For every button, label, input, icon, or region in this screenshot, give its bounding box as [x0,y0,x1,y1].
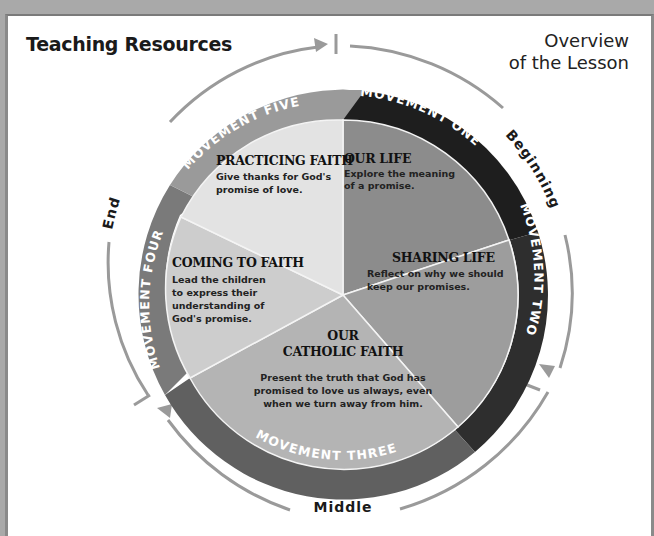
stage-label-middle: Middle [313,499,372,515]
segment-text-line: Present the truth that God has [260,372,426,383]
segment-text-line: keep our promises. [367,281,470,292]
segment-text-line: Lead the children [172,274,266,285]
segment-text-line: promised to love us always, even [254,385,433,396]
segment-heading: COMING TO FAITH [172,255,304,270]
segment-heading: SHARING LIFE [392,250,495,265]
segment-text-line: promise of love. [216,184,303,195]
segment-text-line: of a promise. [344,180,415,191]
arrow-down-icon [539,364,555,378]
segment-heading-line-1: OUR [327,328,359,343]
segment-heading-line-2: CATHOLIC FAITH [283,344,404,359]
segment-text-line: to express their [172,287,257,298]
segment-text-line: when we turn away from him. [263,398,423,409]
segment-text-line: Explore the meaning [344,168,455,179]
segment-text-line: God's promise. [172,313,252,324]
segment-text-line: Reflect on why we should [367,268,504,279]
arrow-up-icon [157,404,172,418]
stage-label-end: End [99,195,123,231]
segment-heading: OUR LIFE [344,151,411,166]
segment-text-line: understanding of [172,300,265,311]
arrow-right-icon [314,38,328,52]
segment-heading: PRACTICING FAITH [216,153,353,168]
segment-text-line: Give thanks for God's [216,171,331,182]
